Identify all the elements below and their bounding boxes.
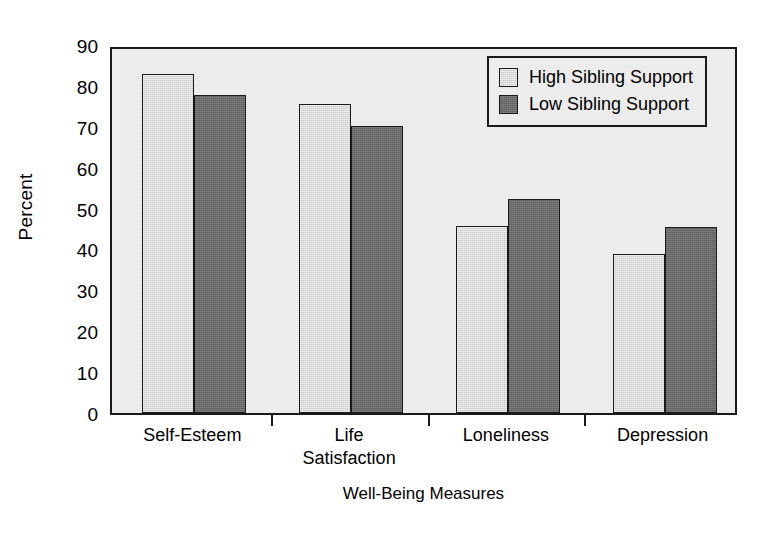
y-axis-tick-label: 40 bbox=[8, 240, 98, 262]
y-axis-tick-label: 60 bbox=[8, 159, 98, 181]
bar-high-3 bbox=[613, 254, 665, 413]
legend-label-low: Low Sibling Support bbox=[529, 94, 689, 115]
bar-high-1 bbox=[299, 104, 351, 413]
bar-low-2 bbox=[508, 199, 560, 413]
y-axis-tick-label: 10 bbox=[8, 363, 98, 385]
bar-chart-figure: Percent 0102030405060708090 Self-EsteemL… bbox=[0, 0, 780, 537]
y-axis-tick-label: 70 bbox=[8, 118, 98, 140]
bar-low-0 bbox=[194, 95, 246, 413]
y-axis-tick-label: 80 bbox=[8, 77, 98, 99]
legend-label-high: High Sibling Support bbox=[529, 67, 693, 88]
x-axis-category-label: Self-Esteem bbox=[102, 424, 282, 447]
legend-item-high-sibling-support: High Sibling Support bbox=[499, 64, 693, 91]
bar-high-2 bbox=[456, 226, 508, 413]
x-axis-category-label: Loneliness bbox=[416, 424, 596, 447]
x-axis-category-label: Depression bbox=[573, 424, 753, 447]
y-axis-tick-label: 90 bbox=[8, 36, 98, 58]
bar-low-3 bbox=[665, 227, 717, 413]
chart-legend: High Sibling Support Low Sibling Support bbox=[487, 56, 707, 127]
x-axis-title: Well-Being Measures bbox=[110, 484, 737, 504]
legend-swatch-icon-low bbox=[499, 95, 518, 114]
legend-swatch-icon-high bbox=[499, 68, 518, 87]
y-axis-tick-label: 20 bbox=[8, 322, 98, 344]
y-axis-tick-label: 30 bbox=[8, 281, 98, 303]
bar-high-0 bbox=[142, 74, 194, 413]
x-axis-category-label: Life Satisfaction bbox=[259, 424, 439, 470]
bar-low-1 bbox=[351, 126, 403, 413]
y-axis-tick-label: 50 bbox=[8, 200, 98, 222]
y-axis-tick-label: 0 bbox=[8, 404, 98, 426]
legend-item-low-sibling-support: Low Sibling Support bbox=[499, 91, 693, 118]
